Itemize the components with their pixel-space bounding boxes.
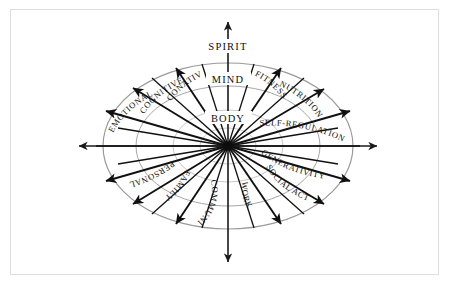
spoke-label-group: EMOTIONAL COGNITIVE CONATIVE FITNESS NUT… [0,0,347,228]
spoke-label-self-regulation: SELF-REGULATION [259,117,347,143]
center-label-mind: MIND [212,74,244,85]
center-label-body: BODY [211,113,245,124]
diagram-root: SPIRIT MIND BODY EMOTIONAL COGNITIVE CON… [0,0,451,287]
center-label-spirit: SPIRIT [208,41,247,52]
spoke-label-community: COMMUNITY [0,0,220,228]
spoke-label-personal: PERSONAL [128,159,177,190]
spoke-label-family: FAMILY [163,169,193,203]
center-label-group: SPIRIT MIND BODY [203,39,254,124]
radial-wheel-diagram: SPIRIT MIND BODY EMOTIONAL COGNITIVE CON… [0,0,451,287]
center-hub [223,141,232,150]
spoke-label-conative: CONATIVE [0,0,204,103]
